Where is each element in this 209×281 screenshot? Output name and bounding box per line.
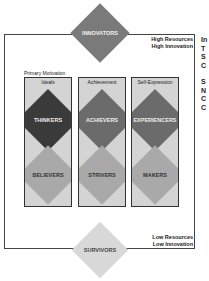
fragment-line: N xyxy=(201,87,207,96)
annotation-line: High Innovation xyxy=(130,43,193,50)
primary-motivation-label: Primary Motivation xyxy=(24,70,65,76)
fragment-line: T xyxy=(201,45,207,54)
fragment-line: S xyxy=(201,53,207,62)
fragment-line: S xyxy=(201,78,207,87)
fragment-line: C xyxy=(201,104,207,113)
fragment-line: C xyxy=(201,95,207,104)
column-header: Self-Expression xyxy=(132,79,178,85)
fragment-line: In xyxy=(201,36,207,45)
makers-label: MAKERS xyxy=(127,172,183,178)
thinkers-label: THINKERS xyxy=(20,117,76,123)
fragment-spacer xyxy=(201,70,207,78)
column-self-expression: Self-Expression xyxy=(131,77,179,207)
column-achievement: Achievement xyxy=(78,77,126,207)
believers-label: BELIEVERS xyxy=(20,172,76,178)
survivors-label: SURVIVORS xyxy=(74,247,126,253)
fragment-line: C xyxy=(201,62,207,71)
achievers-label: ACHIEVERS xyxy=(74,117,130,123)
high-resources-annotation: High Resources High Innovation xyxy=(130,36,193,49)
column-header: Ideals xyxy=(25,79,71,85)
cropped-side-text: In T S C S N C C xyxy=(201,36,207,112)
column-header: Achievement xyxy=(79,79,125,85)
column-ideals: Ideals xyxy=(24,77,72,207)
low-resources-annotation: Low Resources Low Innovation xyxy=(130,234,193,247)
innovators-label: INNOVATORS xyxy=(74,30,126,36)
experiencers-label: EXPERIENCERS xyxy=(127,117,183,123)
annotation-line: Low Innovation xyxy=(130,241,193,248)
strivers-label: STRIVERS xyxy=(74,172,130,178)
